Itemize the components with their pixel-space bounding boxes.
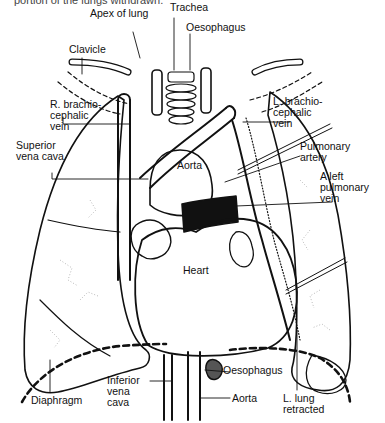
heart-outline (135, 219, 297, 356)
oesophagus-lower (206, 360, 222, 380)
label-superior-vena-cava: Superior vena cava (16, 140, 64, 162)
label-l-brachiocephalic-vein: L. brachio- cephalic vein (273, 96, 323, 129)
label-clavicle: Clavicle (69, 44, 106, 55)
label-left-pulmonary-vein: A left pulmonary vein (320, 171, 369, 204)
label-inferior-vena-cava: Inferior vena cava (107, 375, 140, 408)
label-aorta-bottom: Aorta (232, 393, 257, 404)
label-trachea: Trachea (170, 2, 208, 13)
thoracic-anatomy-illustration (0, 0, 385, 423)
trachea-rings (166, 72, 196, 124)
descending-aorta (188, 352, 200, 420)
retracted-left-lung-lobe (306, 355, 346, 394)
label-r-brachiocephalic-vein: R. brachio- cephalic vein (50, 99, 101, 132)
label-l-lung-retracted: L. lung retracted (283, 393, 324, 415)
left-lung-outline (268, 92, 350, 391)
label-diaphragm: Diaphragm (31, 395, 82, 406)
label-apex-of-lung: Apex of lung (90, 8, 148, 19)
superior-vena-cava (118, 100, 130, 280)
label-oesophagus-bottom: Oesophagus (223, 365, 283, 376)
right-atrium (131, 220, 171, 259)
label-oesophagus-top: Oesophagus (186, 22, 246, 33)
label-heart: Heart (183, 265, 209, 276)
label-pulmonary-artery: Pulmonary artery (300, 141, 350, 163)
pulmonary-trunk (182, 196, 238, 232)
left-brachiocephalic-vein (140, 108, 234, 188)
label-aorta-top: Aorta (177, 160, 202, 171)
inferior-vena-cava (164, 355, 172, 420)
